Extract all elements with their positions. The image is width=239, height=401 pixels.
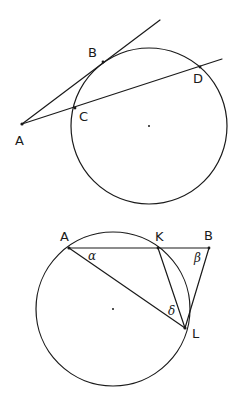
center-dot-bottom: [112, 308, 114, 310]
label-A-top: A: [15, 133, 24, 148]
point-D-top: [199, 66, 202, 69]
point-B-bottom: [208, 247, 211, 250]
geometry-diagram: A B C D A K B L α β δ: [0, 0, 239, 401]
tangent-line-AB: [22, 20, 160, 124]
center-dot-top: [148, 125, 150, 127]
point-A-bottom: [67, 246, 70, 249]
angle-delta-label: δ: [168, 304, 175, 318]
point-L: [183, 326, 186, 329]
figure-bottom: A K B L α β δ: [36, 228, 213, 386]
label-A-bottom: A: [60, 229, 69, 244]
angle-beta-label: β: [193, 251, 201, 265]
figure-top: A B C D: [15, 20, 227, 204]
label-B-top: B: [88, 45, 97, 60]
secant-line-ACD: [22, 59, 222, 124]
point-C-top: [74, 107, 77, 110]
point-K: [157, 247, 160, 250]
label-B-bottom: B: [204, 228, 213, 243]
point-B-top: [102, 61, 105, 64]
label-L: L: [192, 326, 200, 341]
label-K: K: [155, 229, 164, 244]
point-A-top: [20, 122, 23, 125]
label-C-top: C: [79, 109, 88, 124]
label-D-top: D: [193, 71, 203, 86]
angle-alpha-label: α: [88, 249, 96, 263]
